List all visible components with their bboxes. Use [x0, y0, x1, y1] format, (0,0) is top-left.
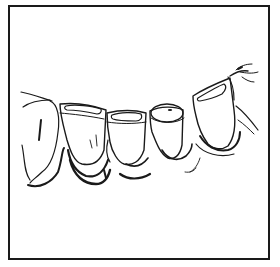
tooth-2 [107, 111, 150, 179]
left-gingiva [21, 92, 64, 186]
tooth-4 [193, 77, 240, 156]
teeth-illustration [0, 0, 280, 267]
tooth-1 [60, 103, 110, 184]
tooth-3 [150, 104, 200, 172]
